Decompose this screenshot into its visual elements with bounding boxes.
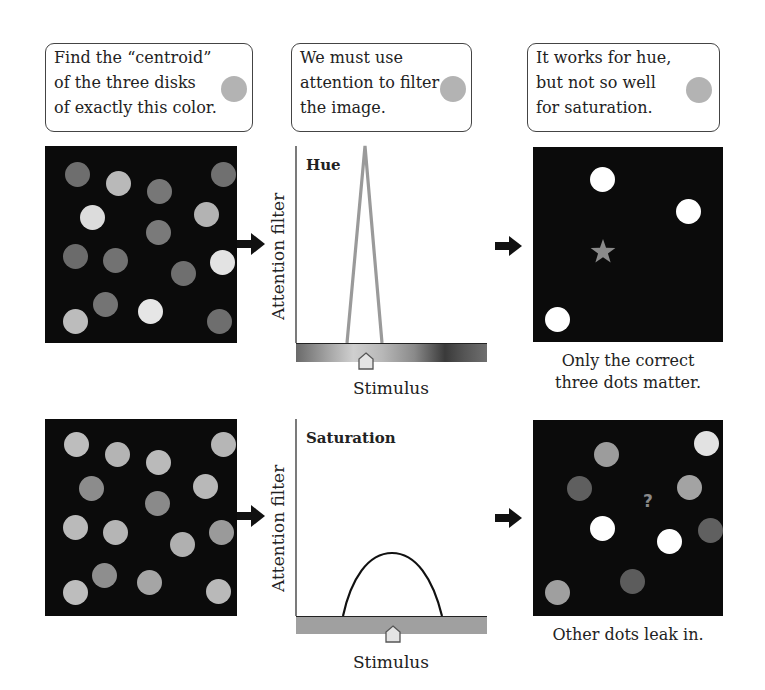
disk [106,171,131,196]
callout-find-centroid: Find the “centroid” of the three disks o… [45,43,253,132]
caption-line: Only the correct [533,351,723,371]
disk [92,563,117,588]
disk [63,515,88,540]
disk [590,167,615,192]
callout-line: the image. [300,98,386,117]
disk [147,179,172,204]
disk [105,442,130,467]
callout-line: It works for hue, [536,48,671,67]
chart-title: Saturation [306,429,396,447]
disk [211,432,236,457]
disk [138,299,163,324]
disk [63,244,88,269]
stimulus-marker-icon [385,625,401,643]
target-color-swatch [686,77,712,103]
disk [209,520,234,545]
caption-line: Other dots leak in. [523,625,733,645]
y-axis-label: Attention filter [268,465,288,592]
disk [193,474,218,499]
saturation-input-image [45,419,237,616]
disk [545,307,570,332]
disk [63,309,88,334]
target-color-swatch [440,76,466,102]
stimulus-marker-icon [358,352,374,370]
disk [545,580,570,605]
disk [657,529,682,554]
arrow-right-icon [495,236,525,256]
target-color-swatch [221,76,247,102]
disk [103,520,128,545]
disk [620,569,645,594]
disk [207,309,232,334]
callout-hue-vs-saturation: It works for hue, but not so well for sa… [527,43,720,132]
centroid-star-icon [589,238,617,266]
callout-line: for saturation. [536,98,653,117]
disk [64,432,89,457]
disk [65,162,90,187]
disk [210,250,235,275]
callout-line: We must use [300,48,403,67]
callout-line: of exactly this color. [54,98,217,117]
x-axis-label: Stimulus [341,652,441,672]
saturation-result-caption: Other dots leak in. [523,625,733,645]
arrow-right-icon [237,232,267,256]
disk [194,202,219,227]
hue-stimulus-bar [296,343,487,362]
disk [211,162,236,187]
callout-line: Find the “centroid” [54,48,211,67]
callout-use-attention: We must use attention to filter the imag… [291,43,472,132]
hue-input-image [45,146,237,343]
y-axis-label: Attention filter [268,193,288,320]
disk [63,580,88,605]
disk [698,518,723,543]
disk [170,532,195,557]
disk [590,516,615,541]
disk [594,442,619,467]
disk [567,476,592,501]
x-axis-label: Stimulus [341,378,441,398]
caption-line: three dots matter. [533,373,723,393]
disk [103,248,128,273]
chart-title: Hue [306,156,341,174]
callout-line: but not so well [536,73,656,92]
callout-line: attention to filter [300,73,439,92]
disk [146,450,171,475]
question-mark-icon: ? [643,491,653,511]
hue-filter-curve [296,146,488,346]
disk [146,220,171,245]
hue-filtered-image [533,147,723,342]
disk [145,491,170,516]
saturation-filtered-image: ? [533,420,723,616]
disk [677,475,702,500]
disk [206,579,231,604]
disk [93,292,118,317]
hue-result-caption: Only the correct three dots matter. [533,351,723,393]
disk [676,199,701,224]
disk [79,476,104,501]
arrow-right-icon [237,504,267,528]
disk [80,205,105,230]
disk [171,261,196,286]
saturation-filter-curve [296,419,488,619]
arrow-right-icon [495,508,525,528]
callout-line: of the three disks [54,73,196,92]
disk [694,431,719,456]
disk [137,570,162,595]
